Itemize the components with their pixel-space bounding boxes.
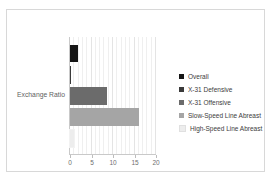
bar-overall (70, 45, 78, 62)
x-tick-label: 20 (152, 159, 159, 167)
category-axis-label: Exchange Ratio (15, 90, 67, 99)
x-tick-label: 0 (68, 159, 72, 167)
bar-high-speed-line-abreast (70, 130, 74, 147)
legend-label: X-31 Offensive (188, 99, 231, 107)
legend-swatch-icon (179, 87, 184, 92)
legend-item[interactable]: X-31 Offensive (179, 96, 265, 109)
x-tick-mark (113, 155, 114, 158)
x-tick-label: 5 (90, 159, 94, 167)
plot-area (69, 37, 156, 155)
legend-label: High-Speed Line Abreast (190, 125, 262, 133)
legend-item[interactable]: Slow-Speed Line Abreast (179, 109, 265, 122)
legend-item[interactable]: High-Speed Line Abreast (179, 122, 265, 135)
x-tick-mark (70, 155, 71, 158)
legend-item[interactable]: X-31 Defensive (179, 83, 265, 96)
legend-label: Overall (188, 73, 209, 81)
legend-label: X-31 Defensive (188, 86, 232, 94)
x-tick-label: 10 (109, 159, 116, 167)
legend-swatch-icon (179, 74, 184, 79)
legend-swatch-icon (179, 113, 184, 118)
x-tick-mark (92, 155, 93, 158)
chart-legend: OverallX-31 DefensiveX-31 OffensiveSlow-… (179, 70, 265, 135)
bar-slow-speed-line-abreast (70, 108, 139, 125)
legend-item[interactable]: Overall (179, 70, 265, 83)
chart-frame: Exchange Ratio 05101520 OverallX-31 Defe… (6, 9, 265, 172)
bar-x-31-defensive (70, 66, 71, 83)
x-tick-mark (135, 155, 136, 158)
legend-label: Slow-Speed Line Abreast (188, 112, 261, 120)
legend-swatch-icon (179, 125, 186, 132)
bar-x-31-offensive (70, 87, 107, 104)
x-tick-mark (156, 155, 157, 158)
bar-group (70, 37, 156, 155)
legend-swatch-icon (179, 100, 184, 105)
x-axis-ticks: 05101520 (69, 155, 156, 171)
x-tick-label: 15 (131, 159, 138, 167)
